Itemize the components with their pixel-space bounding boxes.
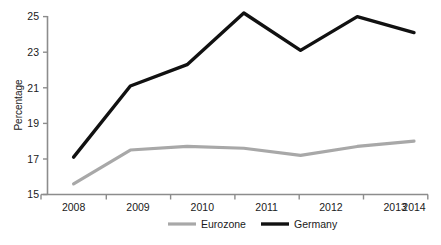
x-tick-labels: 2008 2009 2010 2011 2012 2013 2014 [62, 201, 426, 213]
x-tick-label: 2011 [255, 201, 278, 213]
chart-canvas: 15 17 19 21 23 25 2008 2009 2010 2011 20… [0, 0, 441, 245]
y-tick-label: 23 [27, 46, 39, 58]
x-tick-label: 2009 [126, 201, 150, 213]
chart-legend: Eurozone Germany [168, 218, 338, 230]
x-tick-label: 2012 [319, 201, 343, 213]
y-tick-label: 17 [27, 153, 39, 165]
y-tick-label: 15 [27, 188, 39, 200]
x-tick-label: 2014 [402, 201, 426, 213]
y-tick-labels: 15 17 19 21 23 25 [27, 10, 39, 200]
y-axis-title: Percentage [13, 79, 24, 131]
x-tick-label: 2008 [62, 201, 86, 213]
legend-label-eurozone: Eurozone [201, 218, 246, 230]
y-tick-label: 25 [27, 10, 39, 22]
legend-label-germany: Germany [294, 218, 338, 230]
x-tick-label: 2010 [191, 201, 215, 213]
data-line-germany [74, 13, 414, 157]
y-tick-label: 21 [27, 82, 39, 94]
line-chart: 15 17 19 21 23 25 2008 2009 2010 2011 20… [0, 0, 441, 245]
y-tick-label: 19 [27, 117, 39, 129]
data-line-eurozone [74, 141, 414, 184]
